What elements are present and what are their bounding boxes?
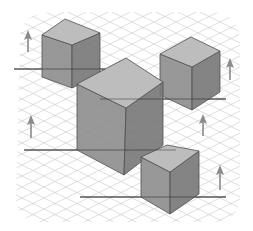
diagram-svg <box>0 0 253 231</box>
grid-line <box>0 0 253 41</box>
grid-line <box>0 0 253 10</box>
grid-line <box>0 0 253 19</box>
grid-line <box>0 212 253 231</box>
grid-line <box>0 0 253 30</box>
grid-line <box>0 168 253 231</box>
grid-line <box>0 199 253 231</box>
grid-line <box>0 166 253 231</box>
cubes-group <box>14 19 226 214</box>
grid-line <box>0 0 253 54</box>
isometric-cubes-diagram <box>0 0 253 231</box>
grid-line <box>0 0 253 43</box>
cube-bottom-right <box>141 145 199 214</box>
grid-line <box>0 188 253 231</box>
grid-line <box>0 179 253 231</box>
grid-line <box>0 223 253 231</box>
grid-line <box>0 0 253 21</box>
grid-line <box>0 201 253 231</box>
grid-line <box>0 190 253 231</box>
grid-line <box>0 0 253 52</box>
grid-line <box>0 210 253 231</box>
grid-line <box>0 0 253 32</box>
up-arrow-icon <box>27 115 35 138</box>
grid-line <box>0 177 253 231</box>
grid-line <box>0 221 253 231</box>
grid-line <box>0 0 253 8</box>
